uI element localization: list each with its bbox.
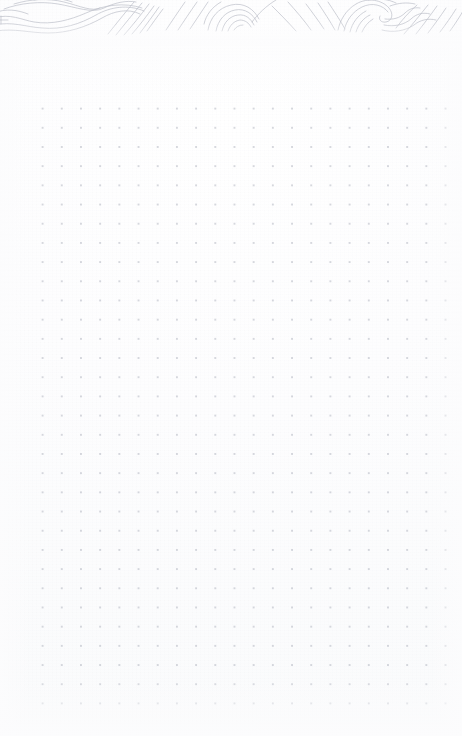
notebook-page: Blank dot grid notebook page (0, 0, 462, 736)
dot-grid (33, 99, 455, 713)
topographic-line-band (0, 0, 462, 46)
contour-lines-icon (0, 0, 462, 46)
